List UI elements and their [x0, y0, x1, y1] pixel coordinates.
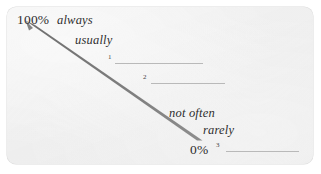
scale-top-value: 100%: [17, 13, 49, 27]
worksheet-card: [7, 7, 313, 164]
phrase-rarely: rarely: [203, 124, 234, 137]
phrase-usually: usually: [75, 34, 113, 47]
answer-blank-3-rule[interactable]: [226, 151, 299, 152]
answer-blank-3-number: 3: [216, 142, 220, 149]
answer-blank-2-number: 2: [143, 74, 147, 81]
answer-blank-1-rule[interactable]: [115, 63, 203, 64]
scale-bottom-value: 0%: [190, 143, 208, 157]
phrase-always: always: [57, 14, 93, 27]
diagram-canvas: 100% always usually not often rarely 0% …: [0, 0, 321, 174]
phrase-not-often: not often: [169, 107, 215, 120]
answer-blank-2-rule[interactable]: [151, 83, 225, 84]
answer-blank-1-number: 1: [108, 54, 112, 61]
